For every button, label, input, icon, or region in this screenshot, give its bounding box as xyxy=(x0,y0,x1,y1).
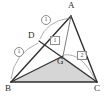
vertex-label-c: C xyxy=(94,84,100,93)
vertex-label-a: A xyxy=(68,1,75,10)
segment-cevian-AG xyxy=(63,16,71,56)
vertex-label-g: G xyxy=(57,57,64,66)
marker-ratio-gc: 2 xyxy=(77,51,87,60)
marker-ratio-bd: 1 xyxy=(14,47,24,57)
vertex-label-b: B xyxy=(5,84,11,93)
geometry-figure: A B C D G 1 1 1 2 xyxy=(0,0,108,100)
marker-ratio-dg: 1 xyxy=(50,36,60,45)
marker-ratio-ad: 1 xyxy=(41,15,51,25)
vertex-label-d: D xyxy=(28,31,35,40)
